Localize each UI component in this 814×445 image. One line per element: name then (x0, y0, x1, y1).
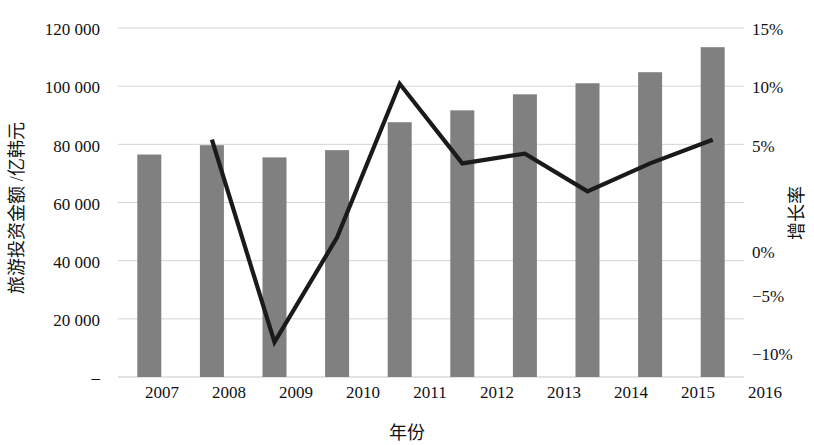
bar-2013 (513, 94, 537, 377)
bar-2007 (137, 155, 161, 377)
bar-2015 (638, 72, 662, 377)
plot-area (0, 0, 814, 445)
bar-2011 (388, 122, 412, 377)
bar-2014 (576, 83, 600, 377)
bar-2016 (701, 47, 725, 377)
bar-2010 (325, 150, 349, 377)
bar-series (137, 47, 724, 377)
chart-container: 旅游投资金额 /亿韩元 增长率 年份 120 000 100 000 80 00… (0, 0, 814, 445)
bar-2008 (200, 145, 224, 377)
